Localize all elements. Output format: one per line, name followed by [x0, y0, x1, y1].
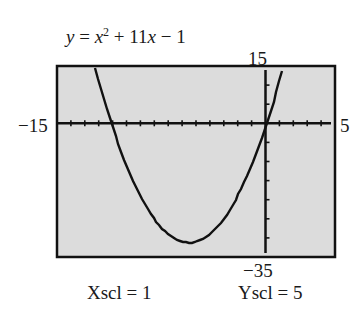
- plot-frame: [57, 66, 335, 257]
- xmin-label: −15: [18, 116, 48, 135]
- yscl-label: Yscl = 5: [238, 283, 303, 302]
- ymin-label: −35: [243, 261, 273, 280]
- xmax-label: 5: [340, 116, 350, 135]
- ymax-label: 15: [248, 49, 267, 68]
- graph-screen: [0, 0, 357, 313]
- xscl-label: Xscl = 1: [87, 283, 152, 302]
